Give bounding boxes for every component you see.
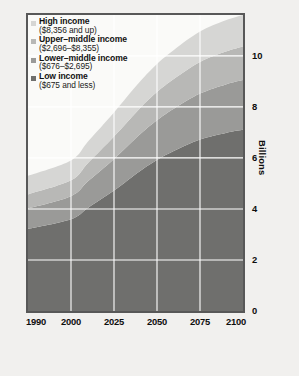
legend-item-texts: High income ($8,356 and up) — [39, 17, 97, 35]
x-axis-tick-label: 2050 — [147, 316, 167, 327]
x-axis-tick-label: 1990 — [26, 316, 46, 327]
legend-range: ($8,356 and up) — [39, 26, 97, 35]
y-axis-tick-label: 2 — [252, 254, 257, 265]
x-axis-tick-label: 2100 — [226, 316, 246, 327]
x-axis-tick-label: 2025 — [104, 316, 124, 327]
legend-item-texts: Lower–middle income ($676–$2,695) — [39, 54, 127, 72]
square-swatch-icon — [31, 21, 36, 26]
chart-legend: High income ($8,356 and up) Upper–middle… — [31, 17, 181, 90]
legend-range: ($676–$2,695) — [39, 62, 127, 71]
legend-item-texts: Upper–middle income ($2,696–$8,355) — [39, 35, 127, 53]
legend-item-texts: Low income ($675 and less) — [39, 72, 95, 90]
x-axis-tick-label: 2000 — [61, 316, 81, 327]
legend-item-upper-middle-income: Upper–middle income ($2,696–$8,355) — [31, 35, 181, 53]
chart-page: High income ($8,356 and up) Upper–middle… — [0, 0, 299, 376]
square-swatch-icon — [31, 58, 36, 63]
y-axis-tick-label: 0 — [252, 305, 257, 316]
legend-item-high-income: High income ($8,356 and up) — [31, 17, 181, 35]
y-axis-tick-label: 10 — [252, 50, 262, 61]
x-axis-tick-label: 2075 — [190, 316, 210, 327]
square-swatch-icon — [31, 39, 36, 44]
legend-item-low-income: Low income ($675 and less) — [31, 72, 181, 90]
y-axis-tick-label: 4 — [252, 203, 257, 214]
y-axis-title: Billions — [257, 140, 268, 175]
square-swatch-icon — [31, 76, 36, 81]
legend-range: ($675 and less) — [39, 81, 95, 90]
y-axis-tick-label: 8 — [252, 101, 257, 112]
legend-range: ($2,696–$8,355) — [39, 44, 127, 53]
legend-item-lower-middle-income: Lower–middle income ($676–$2,695) — [31, 54, 181, 72]
